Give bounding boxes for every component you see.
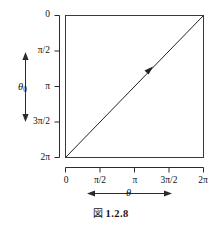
x-axis-label: θ — [126, 187, 131, 198]
x-tick-label-0: 0 — [64, 176, 69, 186]
y-axis-label-subscript: 0 — [23, 85, 27, 94]
figure-caption: 図1.2.8 — [0, 205, 222, 220]
y-tick-label-0: 0 — [24, 10, 50, 20]
data-line-arrowhead — [145, 67, 154, 75]
x-tick-label-2pi: 2π — [198, 176, 208, 186]
data-line — [66, 16, 203, 157]
caption-figure-number: 1.2.8 — [106, 208, 129, 219]
y-tick-label-3pi-over-2: 3π/2 — [20, 117, 50, 127]
theta-span-arrow-left — [87, 190, 95, 196]
y-tick-label-pi: π — [24, 82, 50, 92]
y-tick-label-pi-over-2: π/2 — [24, 46, 50, 56]
x-tick-label-pi: π — [133, 176, 138, 186]
x-tick-label-3pi-over-2: 3π/2 — [161, 176, 178, 186]
y-tick-label-2pi: 2π — [24, 153, 50, 163]
y-axis-label: θ0 — [18, 81, 27, 94]
theta-span-arrow-right — [164, 190, 172, 196]
caption-figure-mark: 図 — [93, 208, 103, 219]
figure-container: 0 π/2 π 3π/2 2π 0 π/2 π 3π/2 2π θ0 θ 図1.… — [0, 0, 222, 226]
x-tick-label-pi-over-2: π/2 — [94, 176, 106, 186]
plot-graphic — [0, 0, 222, 226]
